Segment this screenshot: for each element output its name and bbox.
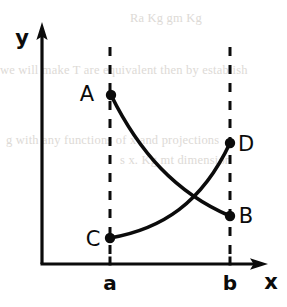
- point-label-d: D: [238, 132, 254, 156]
- figure-container: Ra Kg gm Kg we will make T are equivalen…: [0, 0, 287, 307]
- x-tick-label-b: b: [223, 271, 237, 295]
- bleed-text-line: g with any functions of x and projection…: [6, 133, 219, 147]
- point-marker-b: [225, 211, 235, 221]
- x-tick-label-a: a: [103, 271, 117, 295]
- point-label-a: A: [80, 82, 95, 106]
- math-figure: Ra Kg gm Kg we will make T are equivalen…: [0, 0, 287, 307]
- y-axis-label: y: [15, 26, 29, 50]
- point-marker-a: [106, 90, 116, 100]
- bleed-text-line: s x. Kg mt dimension: [120, 153, 232, 167]
- bleed-text-line: Ra Kg gm Kg: [130, 11, 203, 25]
- x-axis-label: x: [264, 270, 278, 294]
- point-label-b: B: [239, 204, 253, 228]
- point-marker-d: [225, 138, 235, 148]
- point-marker-c: [105, 233, 115, 243]
- point-label-c: C: [86, 227, 101, 251]
- scan-bleed-through-group: Ra Kg gm Kg we will make T are equivalen…: [0, 11, 248, 167]
- bleed-text-line: we will make T are equivalent then by es…: [0, 63, 248, 77]
